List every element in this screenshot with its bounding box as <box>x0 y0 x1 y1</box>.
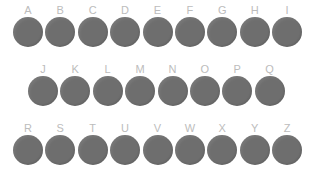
circle-icon[interactable] <box>110 135 140 165</box>
circle-icon[interactable] <box>78 17 108 47</box>
circle-label: E <box>154 4 162 17</box>
circle-icon[interactable] <box>222 76 252 106</box>
circle-icon[interactable] <box>45 17 75 47</box>
circle-label: K <box>72 63 80 76</box>
circle-icon[interactable] <box>240 17 270 47</box>
circle-label: J <box>40 63 46 76</box>
circle-icon[interactable] <box>28 76 58 106</box>
circle-label: O <box>201 63 210 76</box>
circle-cell[interactable]: J <box>28 63 58 106</box>
circle-cell[interactable]: P <box>222 63 252 106</box>
circle-cell[interactable]: W <box>175 122 205 165</box>
circle-icon[interactable] <box>207 17 237 47</box>
circle-label: R <box>24 122 32 135</box>
circle-icon[interactable] <box>13 17 43 47</box>
circle-icon[interactable] <box>13 135 43 165</box>
circle-cell[interactable]: R <box>13 122 43 165</box>
circle-cell[interactable]: Z <box>272 122 302 165</box>
circle-label: N <box>168 63 176 76</box>
circle-icon[interactable] <box>175 135 205 165</box>
circle-label: A <box>24 4 32 17</box>
circle-cell[interactable]: S <box>45 122 75 165</box>
circle-label: M <box>135 63 144 76</box>
circle-icon[interactable] <box>143 17 173 47</box>
circle-label: F <box>186 4 193 17</box>
circle-label: V <box>154 122 162 135</box>
circle-cell[interactable]: V <box>143 122 173 165</box>
circle-cell[interactable]: C <box>78 4 108 47</box>
circle-cell[interactable]: K <box>60 63 90 106</box>
circle-row-0: A B C D E F G H <box>13 4 302 47</box>
circle-row-1: J K L M N O P Q <box>28 63 285 106</box>
circle-cell[interactable]: U <box>110 122 140 165</box>
circle-icon[interactable] <box>207 135 237 165</box>
circle-cell[interactable]: Q <box>255 63 285 106</box>
circle-label: U <box>121 122 129 135</box>
circle-label: L <box>105 63 111 76</box>
circle-icon[interactable] <box>143 135 173 165</box>
circle-row-2: R S T U V W X Y <box>13 122 302 165</box>
circle-cell[interactable]: T <box>78 122 108 165</box>
alphabet-circle-grid: A B C D E F G H <box>0 0 317 191</box>
circle-cell[interactable]: M <box>125 63 155 106</box>
circle-icon[interactable] <box>60 76 90 106</box>
circle-icon[interactable] <box>272 17 302 47</box>
circle-cell[interactable]: E <box>143 4 173 47</box>
circle-icon[interactable] <box>78 135 108 165</box>
circle-label: P <box>234 63 242 76</box>
circle-label: T <box>89 122 96 135</box>
circle-cell[interactable]: H <box>240 4 270 47</box>
circle-label: G <box>218 4 227 17</box>
circle-icon[interactable] <box>45 135 75 165</box>
circle-cell[interactable]: A <box>13 4 43 47</box>
circle-label: B <box>57 4 65 17</box>
circle-cell[interactable]: O <box>190 63 220 106</box>
circle-label: D <box>121 4 129 17</box>
circle-cell[interactable]: G <box>207 4 237 47</box>
circle-cell[interactable]: X <box>207 122 237 165</box>
circle-label: Q <box>265 63 274 76</box>
circle-icon[interactable] <box>110 17 140 47</box>
circle-label: H <box>251 4 259 17</box>
circle-cell[interactable]: I <box>272 4 302 47</box>
circle-label: C <box>89 4 97 17</box>
circle-icon[interactable] <box>125 76 155 106</box>
circle-cell[interactable]: F <box>175 4 205 47</box>
circle-cell[interactable]: B <box>45 4 75 47</box>
circle-label: S <box>57 122 65 135</box>
circle-label: Y <box>251 122 259 135</box>
circle-label: W <box>185 122 196 135</box>
circle-icon[interactable] <box>158 76 188 106</box>
circle-label: I <box>285 4 288 17</box>
circle-cell[interactable]: N <box>158 63 188 106</box>
circle-icon[interactable] <box>272 135 302 165</box>
circle-cell[interactable]: D <box>110 4 140 47</box>
circle-cell[interactable]: L <box>93 63 123 106</box>
circle-icon[interactable] <box>190 76 220 106</box>
circle-cell[interactable]: Y <box>240 122 270 165</box>
circle-icon[interactable] <box>93 76 123 106</box>
circle-icon[interactable] <box>255 76 285 106</box>
circle-icon[interactable] <box>240 135 270 165</box>
circle-icon[interactable] <box>175 17 205 47</box>
circle-label: Z <box>284 122 291 135</box>
circle-label: X <box>219 122 227 135</box>
